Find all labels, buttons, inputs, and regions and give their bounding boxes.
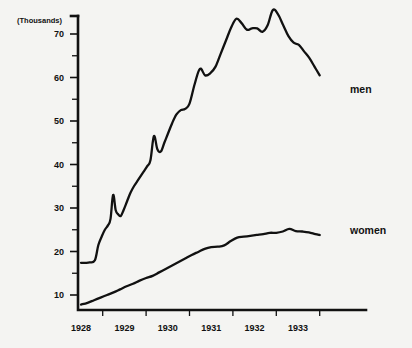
data-series-group — [81, 9, 320, 304]
chart-container: 10203040506070 192819291930193119321933 … — [0, 0, 412, 348]
x-tick-label: 1932 — [245, 323, 265, 333]
x-tick-label: 1930 — [158, 323, 178, 333]
axis-spine — [78, 16, 366, 310]
line-chart: 10203040506070 192819291930193119321933 … — [0, 0, 412, 348]
y-tick-label: 40 — [54, 160, 64, 170]
y-tick-label: 20 — [54, 247, 64, 257]
series-line-men — [81, 9, 320, 262]
series-label-men: men — [350, 83, 372, 95]
y-tick-label: 70 — [54, 29, 64, 39]
x-axis-tick-labels: 192819291930193119321933 — [71, 323, 308, 333]
y-tick-label: 50 — [54, 116, 64, 126]
y-tick-label: 60 — [54, 73, 64, 83]
y-tick-label: 10 — [54, 290, 64, 300]
series-label-women: women — [349, 224, 386, 236]
x-tick-label: 1933 — [288, 323, 308, 333]
y-axis-unit-label: (Thousands) — [17, 16, 62, 25]
y-axis-tick-labels: 10203040506070 — [54, 29, 64, 300]
x-tick-label: 1928 — [71, 323, 91, 333]
series-line-women — [81, 229, 320, 305]
series-annotations: menwomen — [349, 83, 386, 236]
x-tick-label: 1929 — [114, 323, 134, 333]
y-tick-label: 30 — [54, 203, 64, 213]
axis-tick-marks — [70, 34, 320, 316]
x-tick-label: 1931 — [201, 323, 221, 333]
